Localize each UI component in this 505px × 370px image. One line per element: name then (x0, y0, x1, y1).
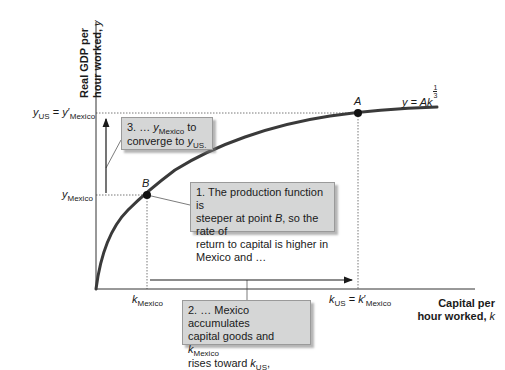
curve-label: y = Ak13 (402, 92, 437, 108)
x-tick-us: kUS = k′Mexico (329, 294, 391, 305)
callout-3-leader (106, 140, 121, 168)
y-axis-title: Real GDP per hour worked, y (78, 14, 122, 98)
x-axis-title: Capital per hour worked, k (405, 297, 495, 323)
x-tick-mexico: kMexico (132, 294, 163, 305)
y-tick-us: yUS = y′Mexico (33, 107, 95, 118)
point-b (143, 191, 151, 199)
point-a-label: A (354, 95, 361, 107)
x-axis-title-line1: Capital per (405, 297, 495, 310)
y-axis-var: y (91, 20, 103, 26)
point-a (354, 109, 362, 117)
callout-1-leader (147, 195, 190, 205)
y-tick-mexico: yMexico (62, 189, 93, 200)
callout-3-convergence: 3. … yMexico to converge to yUS. (121, 117, 213, 150)
callout-2-capital-accumulation: 2. … Mexico accumulates capital goods an… (182, 300, 311, 345)
y-axis-title-line2: hour worked, (91, 29, 103, 98)
y-axis-title-line1: Real GDP per (78, 14, 91, 98)
x-axis-var: k (490, 310, 496, 322)
callout-1-steeper-slope: 1. The production function is steeper at… (190, 182, 335, 232)
x-axis-title-line2: hour worked, (417, 310, 486, 322)
point-b-label: B (142, 177, 149, 189)
